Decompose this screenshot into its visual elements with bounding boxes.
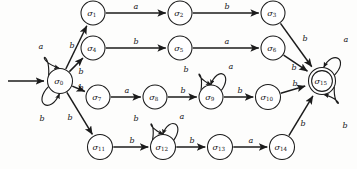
self-loop-label-sigma_15-b: b: [342, 121, 347, 130]
state-node-sigma_5[interactable]: σ5: [168, 36, 192, 60]
automaton-diagram: σ0σ1σ2σ3σ4σ5σ6σ7σ8σ9σ10σ11σ12σ13σ14σ15 b…: [0, 0, 357, 169]
transition-label-sigma_3-sigma_15: b: [302, 34, 307, 43]
state-node-sigma_6[interactable]: σ6: [261, 36, 285, 60]
state-node-sigma_3[interactable]: σ3: [261, 1, 285, 25]
transition-label-sigma_2-sigma_3: b: [224, 2, 229, 11]
transition-label-sigma_13-sigma_14: a: [249, 136, 254, 145]
state-node-sigma_14[interactable]: σ14: [270, 135, 295, 160]
self-loop-label-sigma_0-a: a: [39, 42, 44, 51]
self-loop-label-sigma_12-b: b: [133, 114, 138, 123]
self-loop-label-sigma_15-a: a: [344, 35, 349, 44]
transition-label-sigma_14-sigma_15: b: [300, 119, 305, 128]
transition-label-sigma_0-sigma_11: b: [67, 113, 72, 122]
self-loop-label-sigma_0-b: b: [39, 114, 44, 123]
automaton-canvas: σ0σ1σ2σ3σ4σ5σ6σ7σ8σ9σ10σ11σ12σ13σ14σ15 b…: [0, 0, 357, 169]
transition-label-sigma_1-sigma_2: a: [134, 2, 139, 11]
self-loop-label-sigma_9-b: b: [183, 65, 188, 74]
transition-label-sigma_12-sigma_13: b: [189, 136, 194, 145]
state-node-sigma_9[interactable]: σ9: [199, 85, 223, 109]
transition-label-sigma_11-sigma_12: b: [129, 136, 134, 145]
state-node-sigma_1[interactable]: σ1: [81, 1, 105, 25]
transitions-layer: [66, 13, 313, 147]
transition-label-sigma_5-sigma_6: a: [225, 37, 230, 46]
transition-label-sigma_6-sigma_15: b: [291, 63, 296, 72]
state-node-sigma_10[interactable]: σ10: [256, 85, 281, 110]
transition-label-sigma_9-sigma_10: b: [237, 86, 242, 95]
state-node-sigma_7[interactable]: σ7: [86, 85, 110, 109]
transition-label-sigma_0-sigma_7: b: [78, 83, 83, 92]
transition-label-sigma_0-sigma_4: b: [78, 67, 83, 76]
self-loop-label-sigma_9-a: a: [229, 62, 234, 71]
transition-label-sigma_0-sigma_1: b: [69, 41, 74, 50]
transition-sigma_14-to-sigma_15: [289, 96, 313, 136]
transition-label-sigma_4-sigma_5: b: [133, 37, 138, 46]
state-node-sigma_13[interactable]: σ13: [208, 135, 233, 160]
transition-label-sigma_7-sigma_8: a: [125, 86, 130, 95]
state-node-sigma_15[interactable]: σ15: [309, 68, 336, 95]
state-node-sigma_11[interactable]: σ11: [88, 135, 113, 160]
state-node-sigma_8[interactable]: σ8: [143, 85, 167, 109]
transition-arrow: [289, 96, 313, 136]
state-node-sigma_2[interactable]: σ2: [168, 1, 192, 25]
transition-label-sigma_10-sigma_15: b: [292, 79, 297, 88]
state-node-sigma_12[interactable]: σ12: [151, 135, 176, 160]
self-loop-label-sigma_12-a: a: [180, 112, 185, 121]
state-node-sigma_4[interactable]: σ4: [81, 36, 105, 60]
transition-label-sigma_8-sigma_9: b: [180, 86, 185, 95]
state-node-sigma_0[interactable]: σ0: [48, 69, 73, 94]
